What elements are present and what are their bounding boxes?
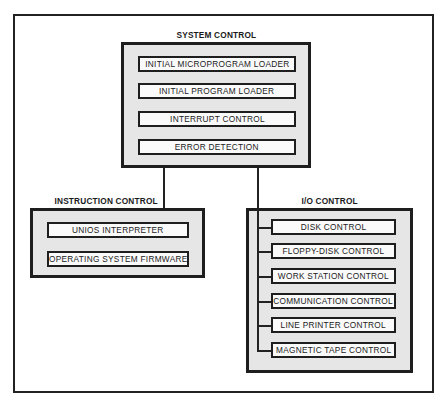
io-item-label: WORK STATION CONTROL <box>278 271 389 281</box>
system-item-interrupt-control: INTERRUPT CONTROL <box>138 111 296 127</box>
system-item-label: INITIAL PROGRAM LOADER <box>159 86 274 96</box>
instruction-control-title-text: INSTRUCTION CONTROL <box>54 196 157 206</box>
io-bus-line <box>257 208 259 351</box>
instruction-control-group <box>30 208 205 278</box>
system-item-program-loader: INITIAL PROGRAM LOADER <box>138 83 296 99</box>
io-item-label: COMMUNICATION CONTROL <box>274 296 394 306</box>
io-branch-line <box>257 301 271 303</box>
io-branch-line <box>257 276 271 278</box>
io-item-magnetic-tape-control: MAGNETIC TAPE CONTROL <box>271 342 396 358</box>
io-item-communication-control: COMMUNICATION CONTROL <box>271 293 396 309</box>
io-item-label: MAGNETIC TAPE CONTROL <box>276 345 391 355</box>
io-control-title-text: I/O CONTROL <box>301 196 357 206</box>
instruction-item-label: OPERATING SYSTEM FIRMWARE <box>49 254 187 264</box>
io-item-label: LINE PRINTER CONTROL <box>281 320 386 330</box>
io-item-floppy-disk-control: FLOPPY-DISK CONTROL <box>271 243 396 259</box>
system-control-title: SYSTEM CONTROL <box>121 30 311 40</box>
io-item-disk-control: DISK CONTROL <box>271 219 396 235</box>
io-item-label: DISK CONTROL <box>301 222 366 232</box>
instruction-item-label: UNIOS INTERPRETER <box>72 225 164 235</box>
system-item-label: ERROR DETECTION <box>175 142 259 152</box>
io-branch-line <box>257 325 271 327</box>
io-branch-line <box>257 251 271 253</box>
system-control-title-text: SYSTEM CONTROL <box>176 30 256 40</box>
connector-system-to-instruction <box>163 168 165 208</box>
instruction-control-title: INSTRUCTION CONTROL <box>30 196 160 206</box>
system-item-label: INTERRUPT CONTROL <box>170 114 265 124</box>
io-branch-line <box>257 227 271 229</box>
io-item-work-station-control: WORK STATION CONTROL <box>271 268 396 284</box>
system-item-label: INITIAL MICROPROGRAM LOADER <box>145 59 289 69</box>
io-branch-line <box>257 350 271 352</box>
instruction-item-os-firmware: OPERATING SYSTEM FIRMWARE <box>47 251 189 267</box>
instruction-item-unios-interpreter: UNIOS INTERPRETER <box>47 222 189 238</box>
io-control-title: I/O CONTROL <box>246 196 413 206</box>
system-item-error-detection: ERROR DETECTION <box>138 139 296 155</box>
io-item-label: FLOPPY-DISK CONTROL <box>282 246 384 256</box>
system-item-microprogram-loader: INITIAL MICROPROGRAM LOADER <box>138 56 296 72</box>
io-item-line-printer-control: LINE PRINTER CONTROL <box>271 317 396 333</box>
